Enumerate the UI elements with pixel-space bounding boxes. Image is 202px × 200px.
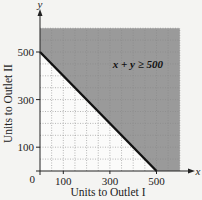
x-axis-arrow-icon [188,169,195,174]
y-tick-label: 100 [18,141,35,153]
inequality-graph: 1003005001003005000xyUnits to Outlet IUn… [0,0,202,200]
x-axis-symbol: x [195,165,201,177]
y-axis-arrow-icon [38,9,43,16]
origin-label: 0 [30,173,36,185]
inequality-annotation: x + y ≥ 500 [112,58,164,70]
y-tick-label: 500 [18,46,35,58]
x-axis-label: Units to Outlet I [70,186,145,198]
y-tick-label: 300 [18,94,35,106]
y-axis-label: Units to Outlet II [2,64,14,143]
x-tick-label: 500 [148,175,165,187]
y-axis-symbol: y [37,0,43,10]
